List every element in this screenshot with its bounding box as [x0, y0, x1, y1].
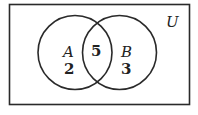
set-b-only-count: 3: [121, 60, 131, 78]
intersection-count: 5: [91, 42, 101, 60]
set-a-only-count: 2: [64, 60, 74, 78]
universe-label: U: [166, 13, 180, 31]
set-a-label: A: [61, 43, 74, 61]
venn-diagram: U A 2 5 B 3: [0, 0, 198, 115]
set-b-label: B: [120, 43, 132, 61]
